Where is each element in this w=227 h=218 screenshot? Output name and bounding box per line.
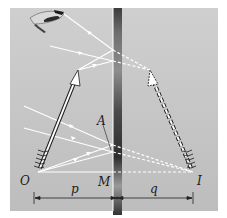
- mirror: [113, 8, 122, 215]
- label-image: I: [196, 174, 202, 188]
- label-reflection-point: A: [96, 114, 106, 128]
- label-mirror-point: M: [97, 175, 111, 189]
- label-object-distance: p: [71, 182, 79, 196]
- plane-mirror-diagram: O I M A p q: [0, 0, 227, 218]
- label-image-distance: q: [150, 182, 158, 196]
- label-object: O: [20, 174, 30, 188]
